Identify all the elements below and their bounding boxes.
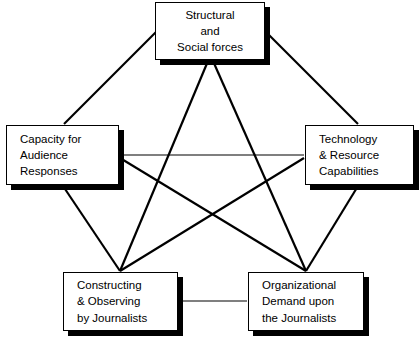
pentagon-relationship-diagram: Structural and Social forces Capacity fo… [0, 0, 420, 340]
node-organizational-demand-journalists: Organizational Demand upon the Journalis… [248, 272, 364, 331]
node-label-technology-resource-capabilities: Technology & Resource Capabilities [306, 131, 413, 180]
node-constructing-observing-journalists: Constructing & Observing by Journalists [63, 272, 178, 331]
node-label-structural-social-forces: Structural and Social forces [156, 7, 264, 56]
node-capacity-audience-responses: Capacity for Audience Responses [6, 125, 119, 185]
node-structural-social-forces: Structural and Social forces [155, 2, 265, 60]
edge-top-right [266, 32, 358, 124]
edge-top-left [64, 32, 156, 124]
edge-right-bottomright [306, 186, 358, 271]
node-label-constructing-observing-journalists: Constructing & Observing by Journalists [64, 277, 177, 326]
node-technology-resource-capabilities: Technology & Resource Capabilities [305, 125, 414, 185]
edge-left-bottomleft [63, 186, 120, 271]
node-label-organizational-demand-journalists: Organizational Demand upon the Journalis… [249, 277, 363, 326]
node-label-capacity-audience-responses: Capacity for Audience Responses [7, 131, 118, 180]
